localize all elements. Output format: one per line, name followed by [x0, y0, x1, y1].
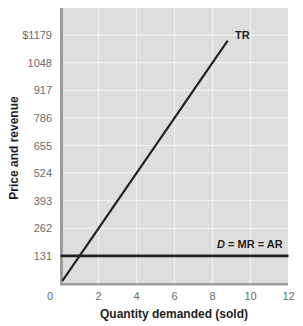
chart: 1312623935246557869171048$1179 024681012…	[0, 0, 303, 326]
x-tick-label: 4	[133, 290, 139, 302]
y-tick-label: 131	[34, 250, 52, 262]
y-tick-label: 917	[34, 84, 52, 96]
x-tick-label: 12	[282, 290, 294, 302]
y-tick-labels: 1312623935246557869171048$1179	[22, 29, 52, 262]
y-tick-label: 524	[34, 167, 52, 179]
demand-label-d: D	[217, 238, 225, 250]
x-tick-label: 8	[209, 290, 215, 302]
demand-label-rest: = MR = AR	[225, 238, 283, 250]
x-tick-label: 0	[47, 290, 53, 302]
tr-curve-label: TR	[235, 29, 250, 41]
y-axis-title: Price and revenue	[7, 96, 21, 200]
x-tick-label: 2	[95, 290, 101, 302]
x-axis-title: Quantity demanded (sold)	[100, 307, 248, 321]
y-tick-label: 655	[34, 140, 52, 152]
y-tick-label: 786	[34, 112, 52, 124]
x-axis-bar	[60, 283, 288, 286]
y-tick-label: 393	[34, 195, 52, 207]
x-tick-label: 10	[244, 290, 256, 302]
demand-curve-label: D = MR = AR	[217, 238, 283, 250]
y-tick-label: 262	[34, 222, 52, 234]
y-axis-bar	[60, 8, 63, 285]
y-tick-label: 1048	[28, 57, 52, 69]
x-tick-labels: 024681012	[47, 290, 295, 302]
y-tick-label: $1179	[22, 29, 52, 41]
x-tick-label: 6	[171, 290, 177, 302]
